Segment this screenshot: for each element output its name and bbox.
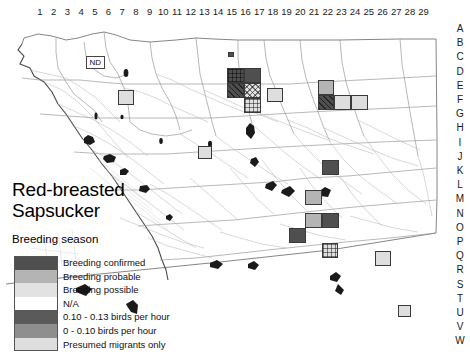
legend-swatch (29, 270, 44, 284)
map-cell (318, 80, 334, 95)
map-cell (398, 305, 411, 317)
map-cell (244, 68, 261, 83)
legend-swatch (43, 270, 58, 284)
legend-swatch (43, 338, 58, 352)
legend-swatch-group (14, 324, 58, 338)
legend-swatch (43, 324, 58, 338)
map-cell (322, 160, 339, 175)
legend-label-high: 0.10 - 0.13 birds per hour (63, 310, 170, 324)
map-cell (118, 90, 134, 105)
map-cell (351, 95, 368, 110)
map-cell (334, 95, 351, 110)
legend-swatch-group (14, 283, 58, 297)
map-cell (244, 98, 261, 113)
legend-swatch (29, 283, 44, 297)
legend-swatch (29, 338, 44, 352)
legend-swatch-group (14, 338, 58, 352)
legend-swatch-group (14, 297, 58, 311)
legend-swatch-group (14, 256, 58, 270)
legend-swatch (43, 256, 58, 270)
legend-swatch (43, 297, 58, 311)
map-cell (227, 83, 244, 98)
legend-swatch (29, 324, 44, 338)
legend-swatch-group (14, 310, 58, 324)
map-cell (322, 243, 338, 258)
map-cell (244, 83, 261, 98)
legend-label-low: 0 - 0.10 birds per hour (63, 324, 156, 338)
map-cell (318, 95, 334, 110)
map-cell (289, 228, 306, 243)
map-cell (227, 68, 244, 83)
legend-swatch (43, 283, 58, 297)
legend-swatch (29, 310, 44, 324)
legend-swatch (14, 310, 29, 324)
map-cell (305, 190, 322, 205)
map-cell (267, 88, 283, 102)
legend-label-confirmed: Breeding confirmed (63, 256, 145, 270)
page-title: Red-breasted Sapsucker (12, 179, 125, 221)
legend-swatch (14, 283, 29, 297)
legend-swatch (14, 338, 29, 352)
legend-swatch-group (14, 270, 58, 284)
legend-swatch (14, 270, 29, 284)
map-cell (228, 52, 234, 57)
season-subtitle: Breeding season (12, 233, 125, 245)
legend-swatch (29, 297, 44, 311)
map-canvas: ND Red-breasted Sapsucker Breeding seaso… (0, 18, 470, 354)
map-cell (198, 146, 212, 159)
legend-swatch (29, 256, 44, 270)
legend-label-probable: Breeding probable (63, 270, 141, 284)
legend-label-possible: Breeding possible (63, 283, 139, 297)
title-block: Red-breasted Sapsucker Breeding season (12, 179, 125, 245)
nd-inset-label: ND (86, 56, 105, 69)
legend-swatch (14, 297, 29, 311)
legend-swatch (43, 310, 58, 324)
map-cell (375, 251, 391, 266)
legend-swatch (14, 324, 29, 338)
legend-label-migrant: Presumed migrants only (63, 338, 165, 352)
legend-label-na: N/A (63, 297, 79, 311)
map-cell (322, 213, 339, 228)
map-cell (305, 213, 322, 228)
column-label-29: 29 (416, 6, 432, 18)
legend-swatch (14, 256, 29, 270)
breeding-distribution-map: 1234567891011121314151617181920212223242… (0, 0, 470, 354)
